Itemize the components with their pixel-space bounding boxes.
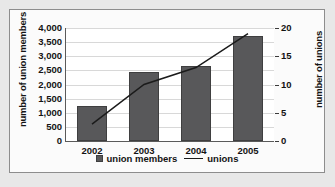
right-tick-mark (275, 113, 279, 114)
right-tick-label: 15 (281, 51, 292, 61)
legend-label: union members (107, 153, 178, 164)
right-tick-label: 10 (281, 80, 292, 90)
chart-panel: number of union members number of unions… (9, 9, 325, 173)
right-tick-label: 5 (281, 108, 286, 118)
left-tick-label: 1,000 (38, 108, 62, 118)
right-tick-mark (275, 85, 279, 86)
right-tick-mark (275, 141, 279, 142)
chart-legend: union membersunions (10, 153, 324, 164)
right-axis-title: number of unions (313, 10, 324, 130)
left-tick-label: 0 (57, 136, 62, 146)
legend-line-icon (184, 158, 203, 159)
plot-area: 05001,0001,5002,0002,5003,0003,5004,000 … (65, 28, 274, 142)
line-series-unions (66, 28, 274, 141)
legend-label: unions (207, 153, 238, 164)
left-tick-label: 2,000 (38, 80, 62, 90)
chart-figure: number of union members number of unions… (0, 0, 335, 187)
left-tick-label: 500 (46, 122, 62, 132)
right-tick-label: 20 (281, 23, 292, 33)
left-tick-label: 3,500 (38, 37, 62, 47)
line-path (92, 34, 248, 124)
left-tick-label: 4,000 (38, 23, 62, 33)
left-tick-label: 3,000 (38, 51, 62, 61)
right-tick-label: 0 (281, 136, 286, 146)
legend-entry: unions (184, 153, 238, 164)
left-tick-label: 1,500 (38, 94, 62, 104)
left-axis-title: number of union members (17, 10, 28, 130)
right-tick-mark (275, 28, 279, 29)
legend-square-icon (96, 155, 103, 162)
left-tick-label: 2,500 (38, 65, 62, 75)
legend-entry: union members (96, 153, 178, 164)
right-tick-mark (275, 56, 279, 57)
